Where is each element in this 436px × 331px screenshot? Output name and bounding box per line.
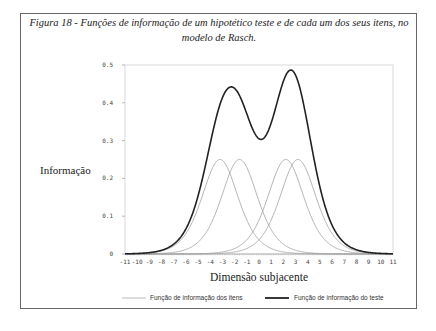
item-curve	[125, 160, 393, 255]
legend-items-label: Função de informação dos itens	[150, 294, 243, 302]
chart: 00.10.20.30.40.5 -11-10-9-8-7-6-5-4-3-2-…	[0, 0, 436, 331]
x-tick-label: 2	[282, 258, 286, 265]
y-tick-label: 0.1	[102, 212, 113, 219]
y-tick-label: 0.4	[102, 99, 113, 106]
x-tick-label: -4	[207, 258, 215, 265]
y-tick-label: 0.2	[102, 174, 113, 181]
x-tick-label: 4	[306, 258, 310, 265]
legend-test-label: Função de informação do teste	[294, 294, 384, 302]
x-tick-label: 5	[318, 258, 322, 265]
x-tick-label: 0	[257, 258, 261, 265]
y-tick-label: 0.5	[102, 61, 113, 68]
y-axis: 00.10.20.30.40.5	[102, 61, 125, 257]
y-tick-label: 0.3	[102, 137, 113, 144]
x-tick-label: -11	[120, 258, 131, 265]
x-tick-label: -5	[194, 258, 202, 265]
x-tick-label: 11	[389, 258, 397, 265]
x-tick-label: 6	[330, 258, 334, 265]
x-tick-label: -10	[132, 258, 143, 265]
x-axis: -11-10-9-8-7-6-5-4-3-2-101234567891011	[120, 254, 397, 265]
test-information-curve	[125, 70, 393, 254]
y-axis-label: Informação	[40, 164, 91, 176]
x-tick-label: -9	[146, 258, 154, 265]
x-tick-label: 3	[294, 258, 298, 265]
x-tick-label: -7	[170, 258, 178, 265]
x-tick-label: -8	[158, 258, 166, 265]
x-tick-label: 9	[367, 258, 371, 265]
x-tick-label: -1	[243, 258, 251, 265]
x-tick-label: -3	[219, 258, 227, 265]
y-tick-label: 0	[109, 250, 113, 257]
x-tick-label: -6	[182, 258, 190, 265]
x-tick-label: -2	[231, 258, 239, 265]
plot-area	[125, 65, 393, 254]
x-tick-label: 1	[269, 258, 273, 265]
x-tick-label: 8	[355, 258, 359, 265]
x-tick-label: 10	[377, 258, 385, 265]
x-tick-label: 7	[342, 258, 346, 265]
x-axis-label: Dimensão subjacente	[210, 271, 308, 284]
item-information-curves	[125, 160, 393, 255]
legend: Função de informação dos itens Função de…	[122, 294, 384, 302]
